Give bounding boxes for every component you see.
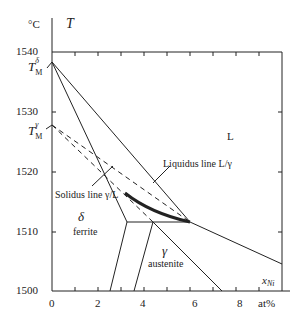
solidus-annotation: Solidus line γ/L — [55, 190, 118, 200]
liquidus-gamma-extension — [190, 222, 282, 264]
x-tick-8: 8 — [237, 298, 243, 309]
y-tick-1510: 1510 — [16, 226, 38, 237]
austenite-label: austenite — [148, 259, 184, 269]
y-tick-1520: 1520 — [16, 166, 38, 177]
phase-diagram — [0, 0, 307, 321]
x-tick-6: 6 — [192, 298, 198, 309]
liquidus-annotation: Liquidus line L/γ — [163, 159, 232, 169]
x-tick-0: 0 — [49, 298, 55, 309]
x-unit-label: at% — [258, 298, 275, 309]
delta-symbol: δ — [78, 210, 84, 223]
ferrite-label: ferrite — [73, 227, 97, 237]
liquid-region-label: L — [227, 131, 234, 142]
y-unit-label: °C — [28, 19, 40, 30]
tm-gamma-label: TMγ — [28, 124, 46, 137]
tm-delta-label: TMδ — [28, 60, 46, 73]
metastable-solidus-gamma — [52, 125, 153, 222]
x-symbol-label: xNi — [262, 275, 274, 286]
delta-solvus-right — [134, 222, 153, 291]
x-tick-2: 2 — [95, 298, 101, 309]
y-tick-1500: 1500 — [16, 285, 38, 296]
gamma-symbol: γ — [162, 244, 167, 257]
y-symbol-label: T — [66, 17, 74, 31]
delta-solvus-left — [110, 222, 127, 291]
y-tick-1530: 1530 — [16, 106, 38, 117]
x-tick-4: 4 — [140, 298, 146, 309]
metastable-liquidus-gamma — [52, 125, 190, 222]
highlighted-curve — [125, 193, 190, 222]
